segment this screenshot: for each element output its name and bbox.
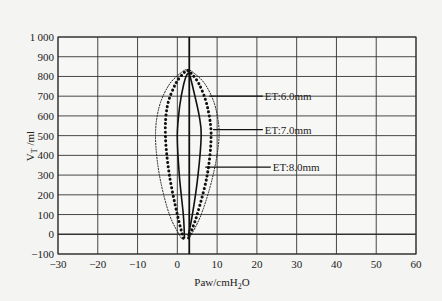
y-tick-label: 200 xyxy=(38,189,55,201)
x-tick-label: 60 xyxy=(411,258,423,270)
x-tick-label: −30 xyxy=(49,258,67,270)
x-tick-label: −10 xyxy=(129,258,147,270)
x-tick-label: 10 xyxy=(212,258,224,270)
y-tick-label: 400 xyxy=(38,149,55,161)
x-tick-label: 50 xyxy=(371,258,383,270)
x-tick-label: 0 xyxy=(175,258,181,270)
y-tick-label: 700 xyxy=(38,90,55,102)
plot-area xyxy=(58,37,416,254)
annotation-label: ET:6.0mm xyxy=(265,90,312,102)
x-tick-label: 20 xyxy=(251,258,263,270)
y-tick-label: 900 xyxy=(38,51,55,63)
y-tick-label: 500 xyxy=(38,130,55,142)
x-tick-label: −20 xyxy=(89,258,107,270)
y-tick-label: 0 xyxy=(49,228,55,240)
y-tick-label: 1 000 xyxy=(30,31,55,43)
x-tick-label: 40 xyxy=(331,258,343,270)
annotation-label: ET:8.0mm xyxy=(273,161,320,173)
pv-loop-chart: −10001002003004005006007008009001 000 −3… xyxy=(0,0,442,301)
x-tick-label: 30 xyxy=(291,258,303,270)
y-tick-label: 300 xyxy=(38,169,55,181)
y-tick-label: 600 xyxy=(38,110,55,122)
y-tick-label: 100 xyxy=(38,209,55,221)
annotation-label: ET:7.0mm xyxy=(265,124,312,136)
y-tick-label: 800 xyxy=(38,70,55,82)
